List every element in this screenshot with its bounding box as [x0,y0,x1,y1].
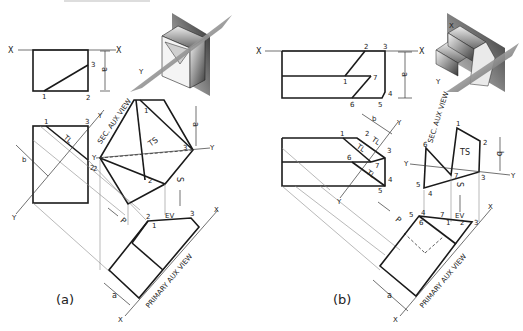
projector [88,160,146,220]
projector [282,186,380,270]
ts-label: TS [146,135,160,149]
ts-edge [100,158,165,184]
point-7: 7 [454,172,458,180]
ref-label-x-right: X [419,47,425,56]
point-3: 3 [474,219,478,227]
ref-label-y: Y [11,214,17,222]
ref-label-x-bottom: X [118,316,123,324]
point-3: 3 [91,61,95,69]
ref-label-x-bottom: X [393,316,398,324]
panel-b: X X 2 3 1 7 4 5 6 a X [256,13,519,324]
sight-arrow [108,208,118,216]
point-7: 7 [440,211,444,219]
aux-edge [132,221,148,243]
ref-label-y-top: Y [97,112,103,120]
point-3: 3 [387,147,391,155]
aux-edge [132,243,163,270]
point-5: 5 [416,181,420,189]
plane-label-y: Y [138,68,144,76]
point-2: 2 [483,139,487,147]
point-4: 4 [428,190,433,198]
ref-label-x-right: X [116,46,122,55]
dimension-a-label: a [400,72,409,77]
primary-aux-view-b: X X 5 4 6 7 1 2 3 EV PRIMARY AUX VIEW P … [373,172,493,324]
pictorial-b: X Y [435,13,519,92]
point-4: 4 [421,209,426,217]
point-6: 6 [423,141,428,149]
front-view-outline [282,51,385,98]
point-1: 1 [446,219,450,227]
point-4: 4 [388,176,393,184]
point-3: 3 [183,144,187,152]
point-3: 3 [481,174,485,182]
ev-label: EV [165,212,174,220]
plane-label-y: Y [435,78,441,86]
dimension-a-label: a [112,291,117,300]
point-1: 1 [340,130,344,138]
front-view-a: X X 1 2 3 a [8,46,122,102]
front-view-cut-line [44,65,88,91]
point-6: 6 [419,219,424,227]
point-1: 1 [42,93,46,101]
dimension-b-label: b [372,115,377,123]
top-view-b: Y Y 1 2 3 4 5 6 7 TL TL TL b [282,114,402,270]
sec-aux-view-title: SEC. AUX VIEW [96,97,133,145]
ref-label-y-left: Y [403,160,409,168]
ref-line-yy [96,148,210,158]
ev-label: EV [455,212,464,220]
sec-aux-view-title: SEC. AUX VIEW [426,91,450,144]
sight-p-label: P [393,215,403,225]
ref-label-y-right: Y [510,172,516,180]
dimension-b-line [16,145,48,176]
point-5: 5 [378,101,382,109]
ref-label-x-top: X [214,206,219,214]
point-5: 5 [378,187,382,195]
ref-label-y-left: Y [91,154,97,162]
point-2: 2 [365,130,369,138]
point-1: 1 [152,222,156,230]
point-2: 2 [146,213,150,221]
point-3: 3 [85,118,89,126]
point-1: 1 [456,120,460,128]
point-7: 7 [373,74,377,82]
panel-a: X X 1 2 3 a Y [8,13,232,324]
point-2: 2 [364,43,368,51]
point-2: 2 [86,94,90,102]
ref-label-y-bottom: Y [336,198,342,206]
hidden-line [404,233,425,253]
point-7: 7 [375,162,379,170]
ref-label-y-top: Y [396,119,402,127]
projector [320,186,400,250]
sight-arrow [378,202,390,211]
ref-label-x-top: X [488,203,493,211]
point-1: 1 [44,118,48,126]
front-view-b: X X 2 3 1 7 4 5 6 a [256,43,425,109]
point-1: 1 [144,107,148,115]
figure-canvas: X X 1 2 3 a Y [0,0,523,331]
pictorial-a: Y [130,13,232,96]
ref-line-xx [125,210,218,316]
point-1: 1 [343,78,347,86]
dimension-b-label: b [22,156,27,164]
point-2-ts: 2 [148,177,152,185]
point-2: 2 [460,219,464,227]
ref-label-x-left: X [8,46,14,55]
ref-label-x-left: X [256,47,262,56]
sight-p-label: P [118,216,128,226]
projector [33,203,110,272]
ref-label-y-right: Y [209,144,215,152]
plane-label-x: X [449,22,454,30]
point-6: 6 [350,101,355,109]
secondary-aux-view-a: SEC. AUX VIEW Y Y Y 2 3 2 1 TS a S [91,97,215,206]
dimension-a-label: a [100,67,109,72]
hidden-line [100,150,193,158]
point-3: 3 [383,43,387,51]
hidden-line [425,237,443,253]
dimension-a-label: a [387,291,392,300]
secondary-aux-view-b: SEC. AUX VIEW Y Y 1 2 3 4 5 6 7 TS b S [403,91,516,212]
point-3: 3 [190,210,194,218]
sight-s-label: S [175,177,184,182]
dimension-b-label: b [495,151,504,156]
point-4: 4 [388,90,393,98]
dimension-a-label: a [191,122,200,127]
